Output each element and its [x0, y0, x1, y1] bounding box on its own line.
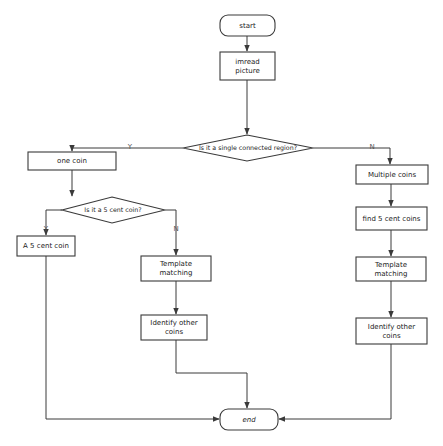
no-label-2: N [173, 225, 178, 233]
edge-identify-left-end [176, 340, 247, 408]
multiple-coins-node: Multiple coins [356, 165, 428, 184]
is-5cent-decision: Is it a 5 cent coin? [62, 197, 165, 223]
imread-node: imread picture [220, 52, 275, 80]
template-right-line1: Template [374, 261, 407, 269]
no-label-1: N [369, 143, 374, 151]
identify-right-node: Identify other coins [356, 318, 427, 344]
a-5cent-label: A 5 cent coin [23, 242, 69, 250]
multiple-coins-label: Multiple coins [368, 171, 417, 179]
yes-label-2: Y [43, 225, 49, 233]
imread-label-line2: picture [235, 67, 259, 75]
end-label: end [242, 416, 256, 424]
identify-left-line2: coins [165, 328, 184, 336]
edge-identify-right-end [279, 344, 391, 419]
find-5cent-label: find 5 cent coins [363, 215, 421, 223]
identify-left-line1: Identify other [150, 319, 197, 327]
start-node: start [220, 15, 275, 36]
edge-decision2-a5cent [46, 210, 62, 235]
is-5cent-label: Is it a 5 cent coin? [84, 206, 141, 213]
one-coin-node: one coin [28, 152, 116, 170]
identify-right-line1: Identify other [368, 323, 415, 331]
template-left-node: Template matching [141, 256, 211, 281]
start-label: start [239, 22, 256, 30]
yes-label-1: Y [127, 143, 133, 151]
edge-decision-multiple-coins [313, 148, 390, 164]
flowchart: start imread picture Is it a single conn… [0, 0, 443, 446]
find-5cent-node: find 5 cent coins [356, 207, 427, 230]
template-right-line2: matching [375, 270, 408, 278]
identify-left-node: Identify other coins [141, 315, 207, 340]
template-left-line2: matching [160, 269, 193, 277]
one-coin-label: one coin [57, 157, 87, 165]
single-region-label: Is it a single connected region? [199, 144, 297, 152]
single-region-decision: Is it a single connected region? [183, 135, 313, 161]
identify-right-line2: coins [382, 332, 401, 340]
a-5cent-node: A 5 cent coin [17, 236, 75, 256]
template-right-node: Template matching [356, 257, 426, 281]
connectors [46, 36, 391, 419]
end-node: end [220, 409, 278, 430]
imread-label-line1: imread [235, 58, 260, 66]
template-left-line1: Template [159, 260, 192, 268]
